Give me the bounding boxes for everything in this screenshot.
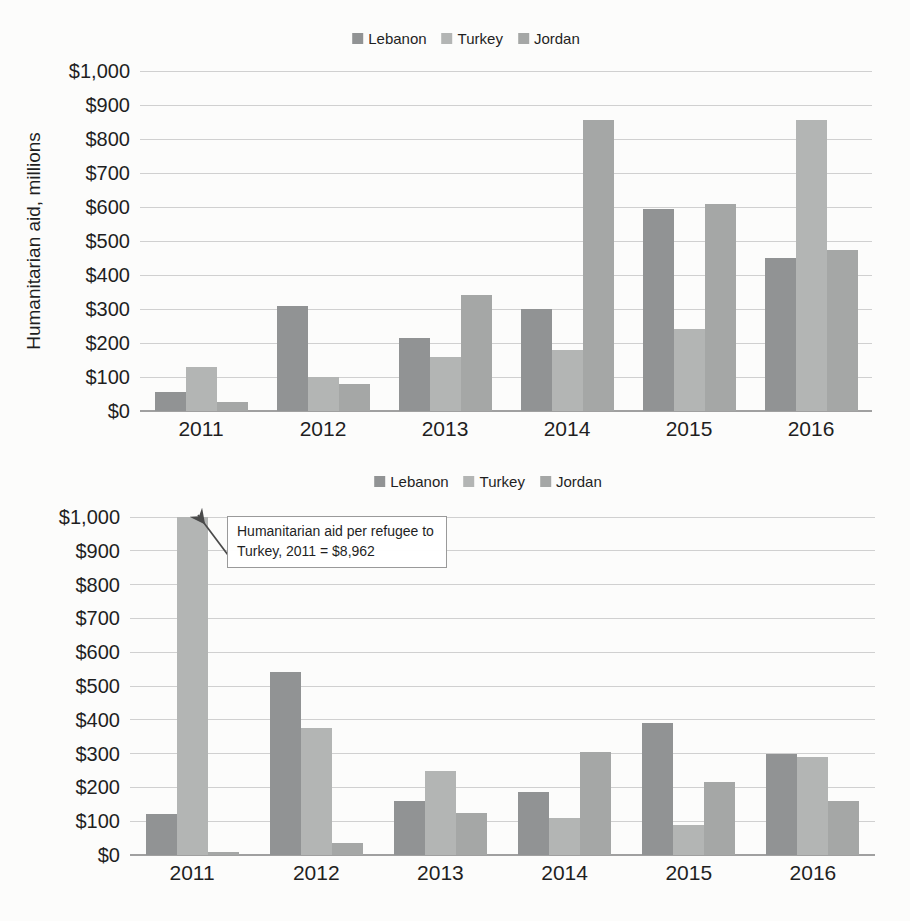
bar-jordan-2015 [705, 204, 736, 411]
bar-jordan-2013 [456, 813, 487, 855]
x-tick-label-2011: 2011 [147, 861, 237, 885]
y-tick-label: $900 [25, 539, 120, 563]
bar-lebanon-2013 [394, 801, 425, 855]
x-tick-label-2013: 2013 [400, 417, 490, 441]
gridline [140, 275, 872, 276]
legend-label-lebanon: Lebanon [390, 473, 448, 490]
gridline [130, 821, 875, 822]
y-tick-label: $100 [25, 809, 120, 833]
x-tick-label-2016: 2016 [766, 417, 856, 441]
bar-jordan-2011 [208, 852, 239, 855]
y-tick-label: $900 [35, 93, 130, 117]
gridline [140, 241, 872, 242]
gridline [140, 71, 872, 72]
bar-jordan-2016 [828, 801, 859, 855]
legend-swatch-turkey [464, 476, 475, 487]
bar-lebanon-2013 [399, 338, 430, 411]
legend: LebanonTurkeyJordan [374, 473, 602, 490]
x-axis-line [140, 410, 872, 412]
bar-lebanon-2016 [766, 754, 797, 855]
bar-turkey-2014 [552, 350, 583, 411]
y-tick-label: $300 [35, 297, 130, 321]
bar-lebanon-2014 [518, 792, 549, 855]
legend-item-jordan: Jordan [540, 473, 602, 490]
legend-item-turkey: Turkey [464, 473, 525, 490]
legend-swatch-jordan [540, 476, 551, 487]
x-tick-label-2014: 2014 [520, 861, 610, 885]
annotation-box: Humanitarian aid per refugee to Turkey, … [227, 516, 447, 568]
bar-lebanon-2011 [155, 392, 186, 411]
bar-jordan-2011 [217, 402, 248, 411]
bar-turkey-2013 [430, 357, 461, 411]
y-tick-label: $500 [35, 229, 130, 253]
legend-swatch-turkey [442, 33, 453, 44]
y-tick-label: $400 [25, 708, 120, 732]
legend: LebanonTurkeyJordan [352, 30, 580, 47]
legend-swatch-lebanon [352, 33, 363, 44]
bar-lebanon-2016 [765, 258, 796, 411]
gridline [130, 719, 875, 720]
x-tick-label-2012: 2012 [278, 417, 368, 441]
y-tick-label: $1,000 [35, 59, 130, 83]
gridline [130, 753, 875, 754]
y-tick-label: $600 [25, 640, 120, 664]
y-tick-label: $200 [25, 775, 120, 799]
bar-jordan-2014 [583, 120, 614, 411]
y-tick-label: $0 [35, 399, 130, 423]
bar-jordan-2014 [580, 752, 611, 855]
bar-turkey-2016 [796, 120, 827, 411]
gridline [140, 207, 872, 208]
legend-item-lebanon: Lebanon [374, 473, 448, 490]
gridline [140, 343, 872, 344]
legend-swatch-jordan [518, 33, 529, 44]
x-tick-label-2015: 2015 [644, 861, 734, 885]
bar-lebanon-2012 [270, 672, 301, 855]
gridline [130, 618, 875, 619]
y-tick-label: $300 [25, 742, 120, 766]
bar-lebanon-2012 [277, 306, 308, 411]
x-tick-label-2016: 2016 [768, 861, 858, 885]
bar-jordan-2012 [339, 384, 370, 411]
bar-turkey-2014 [549, 818, 580, 855]
bar-jordan-2012 [332, 843, 363, 855]
gridline [140, 173, 872, 174]
y-tick-label: $500 [25, 674, 120, 698]
bar-turkey-2012 [301, 728, 332, 855]
gridline [140, 105, 872, 106]
bar-turkey-2011 [186, 367, 217, 411]
legend-item-jordan: Jordan [518, 30, 580, 47]
gridline [130, 787, 875, 788]
bar-jordan-2015 [704, 782, 735, 855]
legend-item-lebanon: Lebanon [352, 30, 426, 47]
bar-lebanon-2015 [643, 209, 674, 411]
bar-turkey-2013 [425, 771, 456, 856]
y-tick-label: $800 [25, 573, 120, 597]
legend-label-turkey: Turkey [458, 30, 503, 47]
bar-lebanon-2015 [642, 723, 673, 855]
y-tick-label: $1,000 [25, 505, 120, 529]
legend-label-turkey: Turkey [480, 473, 525, 490]
y-tick-label: $400 [35, 263, 130, 287]
gridline [130, 584, 875, 585]
x-tick-label-2013: 2013 [395, 861, 485, 885]
gridline [140, 139, 872, 140]
legend-label-jordan: Jordan [534, 30, 580, 47]
annotation-text: Humanitarian aid per refugee to Turkey, … [237, 523, 434, 559]
y-tick-label: $200 [35, 331, 130, 355]
gridline [140, 377, 872, 378]
y-tick-label: $700 [25, 606, 120, 630]
gridline [140, 309, 872, 310]
x-axis-line [130, 854, 875, 856]
y-tick-label: $0 [25, 843, 120, 867]
bar-lebanon-2011 [146, 814, 177, 855]
x-tick-label-2015: 2015 [644, 417, 734, 441]
gridline [130, 686, 875, 687]
legend-swatch-lebanon [374, 476, 385, 487]
legend-label-lebanon: Lebanon [368, 30, 426, 47]
bar-turkey-2016 [797, 757, 828, 855]
x-tick-label-2011: 2011 [156, 417, 246, 441]
bar-jordan-2013 [461, 295, 492, 411]
bar-turkey-2011 [177, 517, 208, 855]
annotation-arrow-line [198, 515, 228, 555]
figure-page: Humanitarian aid, millions $0$100$200$30… [0, 0, 910, 921]
